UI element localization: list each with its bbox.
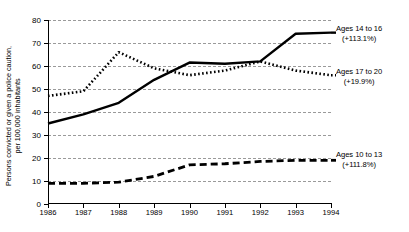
annotation-ages-17-to-20: Ages 17 to 20 (+19.9%) — [336, 67, 382, 86]
y-axis-tick-label: 40 — [32, 108, 41, 117]
annotation-ages-14-to-16: Ages 14 to 16 (+113.1%) — [336, 24, 382, 43]
y-axis-tick-label: 20 — [32, 154, 41, 163]
x-axis-tick-label: 1992 — [252, 208, 269, 217]
annotation-label: Ages 10 to 13 — [336, 150, 382, 160]
annotation-sublabel: (+113.1%) — [336, 34, 382, 44]
annotation-sublabel: (+111.8%) — [336, 160, 382, 170]
x-axis-tick-label: 1988 — [110, 208, 127, 217]
annotation-label: Ages 14 to 16 — [336, 24, 382, 34]
x-axis-tick-label: 1989 — [146, 208, 163, 217]
annotation-label: Ages 17 to 20 — [336, 67, 382, 77]
annotation-ages-10-to-13: Ages 10 to 13 (+111.8%) — [336, 150, 382, 169]
x-axis-tick-label: 1994 — [323, 208, 340, 217]
x-axis-tick-label: 1986 — [40, 208, 57, 217]
x-axis-tick-label: 1993 — [287, 208, 304, 217]
y-axis-tick-label: 10 — [32, 177, 41, 186]
plot-area: 01020304050607080 1986198719881989199019… — [48, 20, 331, 204]
y-axis-title-line-1: Persons convicted or given a police caut… — [4, 46, 13, 186]
x-axis-tick-label: 1990 — [181, 208, 198, 217]
series-lines — [48, 20, 331, 204]
series-line-ages-17-to-20 — [48, 52, 331, 96]
series-line-ages-10-to-13 — [48, 160, 331, 183]
y-axis-tick-label: 80 — [32, 16, 41, 25]
y-axis-tick-label: 30 — [32, 131, 41, 140]
y-axis-tick-label: 60 — [32, 62, 41, 71]
y-axis-title-line-2: per 100,000 inhabitants — [13, 78, 22, 153]
x-axis-tick-label: 1987 — [75, 208, 92, 217]
series-line-ages-14-to-16 — [48, 33, 331, 124]
x-axis-tick-label: 1991 — [216, 208, 233, 217]
annotation-sublabel: (+19.9%) — [336, 77, 382, 87]
y-axis-tick-label: 70 — [32, 39, 41, 48]
y-axis-tick-label: 50 — [32, 85, 41, 94]
chart-figure: Persons convicted or given a police caut… — [0, 0, 409, 232]
y-axis-title: Persons convicted or given a police caut… — [0, 0, 26, 232]
